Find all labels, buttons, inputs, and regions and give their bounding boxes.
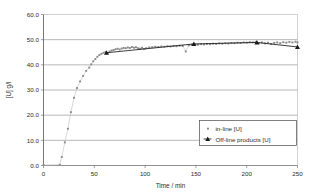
x-tick-label: 100 — [140, 170, 151, 177]
data-point-in-line — [102, 52, 104, 54]
data-point-in-line — [276, 41, 278, 43]
data-point-in-line — [123, 47, 125, 49]
data-point-in-line — [295, 41, 297, 43]
data-point-in-line — [117, 48, 119, 50]
data-point-in-line — [90, 63, 92, 65]
data-point-in-line — [127, 47, 129, 49]
data-point-in-line — [70, 111, 72, 113]
data-point-in-line — [135, 46, 137, 48]
data-point-in-line — [137, 47, 139, 49]
x-tick-label: 200 — [242, 170, 253, 177]
data-point-in-line — [113, 49, 115, 51]
data-point-in-line — [273, 42, 275, 44]
data-point-in-line — [100, 53, 102, 55]
data-point-in-line — [133, 47, 135, 49]
y-tick-label: 30.0 — [27, 86, 40, 93]
data-point-in-line — [111, 50, 113, 52]
data-point-in-line — [64, 141, 66, 143]
scatter-chart: 050100150200250 0.010.020.030.040.050.06… — [0, 0, 311, 196]
data-point-in-line — [141, 47, 143, 49]
data-point-in-line — [85, 70, 87, 72]
data-point-in-line — [43, 164, 45, 166]
y-tick-label: 60.0 — [27, 11, 40, 18]
data-point-in-line — [73, 97, 75, 99]
data-point-in-line — [279, 42, 281, 44]
data-point-in-line — [297, 41, 299, 43]
data-point-in-line — [121, 48, 123, 50]
legend-label-in-line: in-line [U] — [216, 125, 242, 132]
data-point-in-line — [288, 41, 290, 43]
data-point-in-line — [82, 75, 84, 77]
data-point-in-line — [115, 48, 117, 50]
data-point-in-line — [131, 46, 133, 48]
y-tick-label: 50.0 — [27, 36, 40, 43]
data-point-in-line — [61, 156, 63, 158]
data-point-in-line — [185, 51, 187, 53]
y-tick-label: 20.0 — [27, 111, 40, 118]
data-point-in-line — [76, 87, 78, 89]
dot-marker-icon — [207, 128, 209, 130]
x-tick-label: 150 — [191, 170, 202, 177]
legend-label-off-line: Off-line products [U] — [216, 136, 271, 143]
data-point-in-line — [59, 164, 61, 166]
data-point-in-line — [92, 60, 94, 62]
data-point-in-line — [96, 56, 98, 58]
y-tick-label: 10.0 — [27, 137, 40, 144]
data-point-in-line — [88, 67, 90, 69]
data-point-in-line — [94, 58, 96, 60]
data-point-in-line — [282, 41, 284, 43]
y-tick-label: 0.0 — [30, 162, 39, 169]
data-point-in-line — [119, 49, 121, 51]
chart-container: 050100150200250 0.010.020.030.040.050.06… — [0, 0, 311, 196]
chart-legend[interactable]: in-line [U] Off-line products [U] — [200, 121, 297, 146]
chart-background — [0, 0, 311, 196]
x-tick-label: 0 — [42, 170, 46, 177]
data-point-in-line — [285, 42, 287, 44]
data-point-in-line — [125, 47, 127, 49]
y-tick-label: 40.0 — [27, 61, 40, 68]
data-point-in-line — [79, 80, 81, 82]
x-tick-label: 250 — [292, 170, 303, 177]
data-point-in-line — [98, 54, 100, 56]
data-point-in-line — [129, 47, 131, 49]
x-tick-label: 50 — [91, 170, 98, 177]
y-axis-title: [U] g/l — [5, 82, 13, 99]
data-point-in-line — [67, 128, 69, 130]
data-point-in-line — [291, 41, 293, 43]
x-axis-title: Time / min — [156, 182, 186, 189]
